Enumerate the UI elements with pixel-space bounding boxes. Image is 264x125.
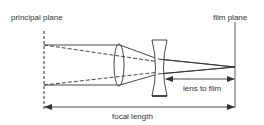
film-plane-label: film plane: [213, 14, 247, 22]
lens-to-film-label: lens to film: [183, 85, 221, 93]
dashed-rays: [44, 45, 160, 85]
focal-length-label: focal length: [112, 113, 153, 121]
principal-plane-label: principal plane: [11, 14, 63, 22]
convex-lens: [114, 44, 124, 86]
